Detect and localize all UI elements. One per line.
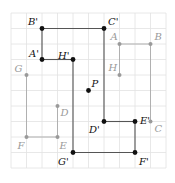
original-vertex-label: A	[110, 31, 118, 42]
image-vertex-label: F'	[138, 156, 149, 167]
image-vertex-label: A'	[28, 48, 39, 59]
image-vertex-dot	[40, 57, 45, 62]
center-point-dot	[86, 88, 91, 93]
original-vertex-dot	[56, 135, 60, 139]
image-vertex-dot	[102, 26, 107, 31]
original-vertex-label: D	[60, 107, 69, 118]
original-vertex-label: F	[17, 140, 26, 151]
original-vertex-dot	[25, 135, 29, 139]
original-vertex-dot	[56, 104, 60, 108]
image-vertex-label: H'	[57, 50, 69, 61]
image-vertex-dot	[71, 150, 76, 155]
image-vertex-label: G'	[58, 156, 69, 167]
original-vertex-dot	[25, 73, 29, 77]
image-vertex-label: C'	[108, 16, 118, 27]
center-point-label: P	[91, 78, 99, 89]
image-vertex-label: B'	[27, 16, 38, 27]
original-vertex-label: E	[59, 140, 68, 151]
original-vertex-label: G	[15, 63, 23, 74]
image-vertex-dot	[133, 119, 138, 124]
original-vertex-dot	[118, 73, 122, 77]
rotation-diagram: ABCDEFGH A'B'C'D'E'F'G'H' P	[0, 0, 175, 183]
original-vertex-dot	[149, 42, 153, 46]
image-vertex-dot	[40, 26, 45, 31]
image-vertex-dot	[133, 150, 138, 155]
image-vertex-dot	[102, 119, 107, 124]
image-vertex-label: D'	[88, 124, 100, 135]
original-vertex-label: B	[154, 31, 162, 42]
image-vertex-label: E'	[139, 115, 150, 126]
image-vertex-dot	[71, 57, 76, 62]
original-vertex-label: C	[155, 123, 163, 134]
original-vertex-label: H	[108, 62, 118, 73]
original-vertex-dot	[118, 42, 122, 46]
